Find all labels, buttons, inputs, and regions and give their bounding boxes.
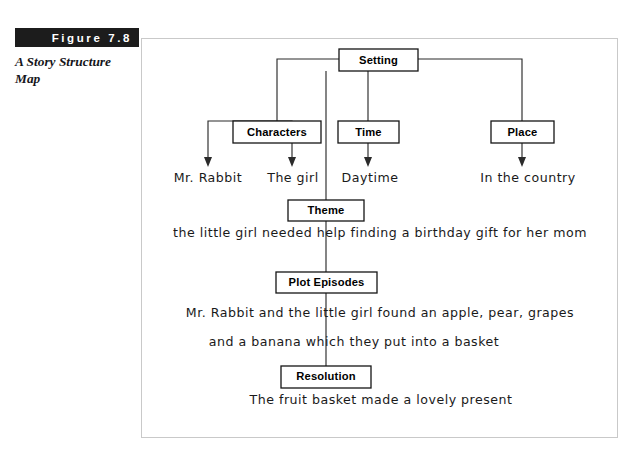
node-label-setting: Setting [359, 54, 398, 66]
arrow-head-place [518, 157, 526, 167]
leaf-text-character-1: Mr. Rabbit [174, 170, 243, 185]
leaf-text-character-2: The girl [266, 170, 319, 185]
arrow-head-character-2 [288, 157, 296, 167]
diagram-panel: Setting Characters Time Place Theme Plot… [141, 38, 618, 438]
arrow-head-time [364, 157, 372, 167]
node-label-resolution: Resolution [296, 370, 355, 382]
response-text-resolution: The fruit basket made a lovely present [249, 392, 513, 407]
response-text-plot-line-2: and a banana which they put into a baske… [209, 334, 499, 349]
leaf-text-time-value: Daytime [342, 170, 399, 185]
node-label-plot-episodes: Plot Episodes [289, 276, 365, 288]
response-text-plot-line-1: Mr. Rabbit and the little girl found an … [186, 305, 574, 320]
figure-title-label: A Story Structure Map [15, 54, 133, 87]
node-label-place: Place [508, 126, 538, 138]
story-structure-map: Setting Characters Time Place Theme Plot… [142, 39, 619, 439]
arrow-head-character-1 [204, 157, 212, 167]
connector-setting-to-place [418, 59, 522, 121]
response-text-theme: the little girl needed help finding a bi… [173, 225, 587, 240]
node-label-theme: Theme [308, 204, 345, 216]
node-label-characters: Characters [247, 126, 307, 138]
node-label-time: Time [355, 126, 382, 138]
figure-caption-block: Figure 7.8 A Story Structure Map [15, 28, 139, 87]
leaf-text-place-value: In the country [480, 170, 576, 185]
figure-number-banner: Figure 7.8 [15, 28, 139, 47]
figure-number-label: Figure 7.8 [52, 32, 132, 44]
connector-setting-to-characters [277, 59, 339, 121]
